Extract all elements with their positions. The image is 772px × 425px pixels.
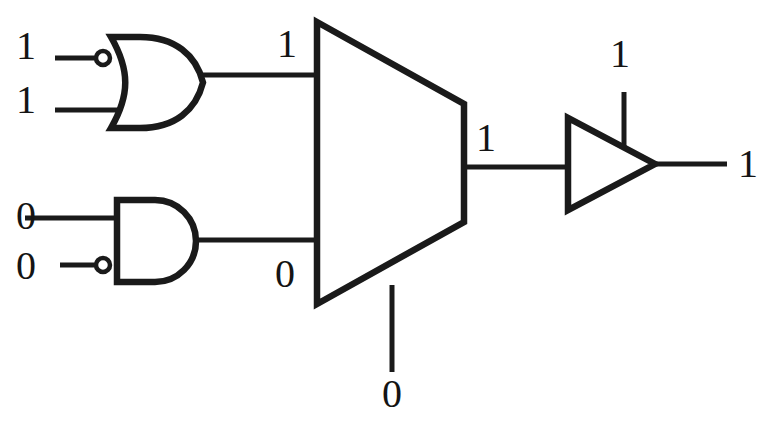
label-and-input-a: 0 — [16, 196, 36, 236]
label-circuit-output: 1 — [738, 144, 758, 184]
label-buffer-enable: 1 — [610, 34, 630, 74]
or-gate-body — [111, 37, 203, 128]
multiplexer-body — [317, 22, 464, 304]
circuit-schematic-svg — [0, 0, 772, 425]
label-mux-select: 0 — [382, 374, 402, 414]
tristate-buffer — [568, 92, 727, 210]
label-or-input-a: 1 — [16, 26, 36, 66]
tristate-buffer-body — [568, 118, 655, 210]
or-gate-input-a-bubble-icon — [96, 51, 110, 65]
label-mux-input-bottom: 0 — [275, 254, 295, 294]
label-or-input-b: 1 — [16, 80, 36, 120]
label-mux-output: 1 — [476, 118, 496, 158]
multiplexer — [317, 22, 570, 372]
label-and-input-b: 0 — [16, 246, 36, 286]
and-gate-input-b-bubble-icon — [96, 258, 110, 272]
label-mux-input-top: 1 — [277, 24, 297, 64]
and-gate-body — [117, 200, 196, 282]
logic-circuit-diagram: 1 1 0 0 1 0 0 1 1 1 — [0, 0, 772, 425]
